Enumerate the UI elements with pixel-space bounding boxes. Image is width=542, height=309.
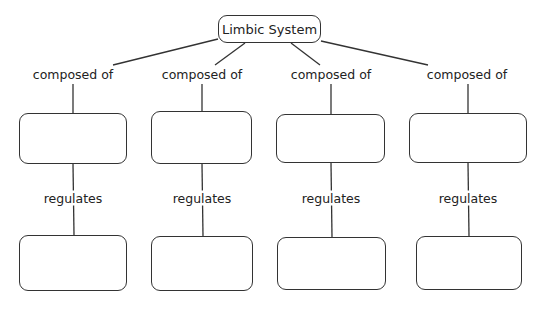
concept-node-bottom-4[interactable] xyxy=(416,236,522,290)
link-label-composed-of-2: composed of xyxy=(160,67,244,82)
concept-node-mid-3[interactable] xyxy=(276,114,385,163)
concept-node-bottom-2[interactable] xyxy=(151,236,253,291)
link-label-regulates-2: regulates xyxy=(171,191,234,206)
link-label-composed-of-1: composed of xyxy=(31,67,115,82)
concept-node-bottom-1[interactable] xyxy=(19,235,127,291)
root-concept-node[interactable]: Limbic System xyxy=(218,15,321,43)
link-label-regulates-1: regulates xyxy=(42,191,105,206)
link-label-regulates-3: regulates xyxy=(300,191,363,206)
link-label-regulates-4: regulates xyxy=(437,191,500,206)
concept-node-bottom-3[interactable] xyxy=(277,237,386,290)
concept-node-mid-2[interactable] xyxy=(151,111,252,164)
root-concept-label: Limbic System xyxy=(222,22,317,37)
concept-node-mid-4[interactable] xyxy=(409,113,527,163)
link-label-composed-of-4: composed of xyxy=(425,67,509,82)
link-label-composed-of-3: composed of xyxy=(289,67,373,82)
concept-node-mid-1[interactable] xyxy=(19,113,127,164)
